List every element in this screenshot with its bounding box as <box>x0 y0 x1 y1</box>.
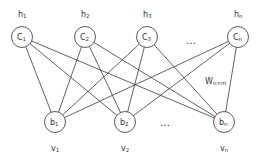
edge-c1-bn <box>22 37 224 122</box>
visible-label-b2: v2 <box>121 144 129 153</box>
edge-c3-b2 <box>125 37 147 122</box>
hidden-label-c3: h3 <box>143 10 152 19</box>
visible-label-b1: v1 <box>51 144 59 153</box>
hidden-label-c1: h1 <box>18 10 27 19</box>
visible-node-bn: bn <box>214 112 235 133</box>
hidden-ellipsis: … <box>186 35 197 46</box>
visible-ellipsis: … <box>160 117 171 128</box>
rbm-diagram: C1C2C3Cnb1b2bn h1h2h3hnv1v2vn … … Wn×m <box>0 0 266 162</box>
hidden-node-c2: C2 <box>75 27 96 48</box>
weight-label: Wn×m <box>205 77 226 86</box>
hidden-label-c2: h2 <box>81 10 90 19</box>
edge-c1-b1 <box>22 37 55 122</box>
hidden-label-cn: hn <box>234 10 243 19</box>
edge-c1-b2 <box>22 37 125 122</box>
hidden-node-c1: C1 <box>12 27 33 48</box>
edge-c3-b1 <box>55 37 147 122</box>
edge-c2-b1 <box>55 37 85 122</box>
visible-node-b2: b2 <box>115 112 136 133</box>
hidden-node-cn: Cn <box>228 27 249 48</box>
edge-c2-b2 <box>85 37 125 122</box>
visible-node-b1: b1 <box>45 112 66 133</box>
hidden-node-c3: C3 <box>137 27 158 48</box>
edge-c2-bn <box>85 37 224 122</box>
visible-label-bn: vn <box>220 144 229 153</box>
